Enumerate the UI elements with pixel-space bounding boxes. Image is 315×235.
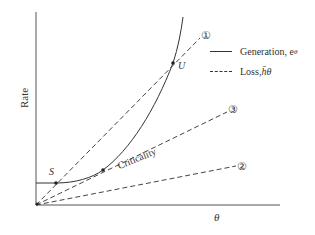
point-s <box>54 181 58 185</box>
legend-loss-text: Loss, <box>240 66 261 77</box>
point-u <box>171 61 175 65</box>
solid-line-swatch <box>210 51 232 52</box>
legend-loss: Loss, h̄θ <box>210 66 271 77</box>
line-3-label: ③ <box>227 103 239 115</box>
point-u-label: U <box>178 60 185 71</box>
point-s-label: S <box>49 166 54 177</box>
loss-line-1 <box>36 38 200 205</box>
line-2-label: ② <box>236 160 248 172</box>
y-axis-label: Rate <box>18 78 30 118</box>
diagram-canvas <box>0 0 315 235</box>
line-1-label: ① <box>200 29 212 41</box>
point-criticality <box>101 168 105 172</box>
loss-line-2 <box>36 166 236 205</box>
legend-loss-symbol: h̄θ <box>261 66 271 77</box>
x-axis-label: θ <box>214 211 219 223</box>
origin-point <box>36 203 39 206</box>
legend-generation-text: Generation, e <box>240 46 294 57</box>
generation-curve <box>36 17 183 183</box>
legend-generation: Generation, eθ <box>210 46 297 57</box>
legend-generation-sup: θ <box>294 48 297 56</box>
dashed-line-swatch <box>210 71 232 72</box>
